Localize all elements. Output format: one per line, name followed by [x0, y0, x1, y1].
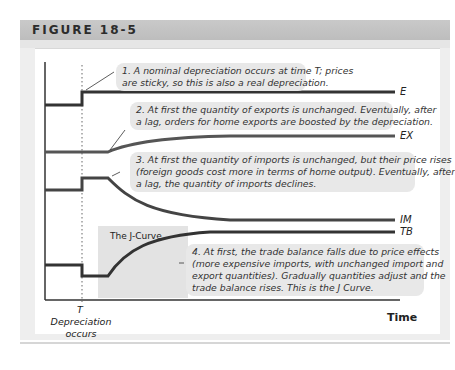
series-label-tb: TB	[400, 226, 413, 237]
series-label-im: IM	[400, 214, 412, 225]
series-label-ex: EX	[400, 130, 413, 141]
series-ex-line	[45, 136, 395, 152]
callout-3: 3. At first the quantity of imports is u…	[130, 152, 415, 192]
x-axis-label: Time	[387, 311, 417, 324]
series-label-e: E	[400, 86, 406, 97]
t-axis-caption: Depreciation occurs	[46, 316, 116, 340]
callout-4: 4. At first, the trade balance falls due…	[186, 244, 424, 296]
callout-1-leader	[86, 72, 114, 90]
callout-1: 1. A nominal depreciation occurs at time…	[116, 63, 306, 91]
t-axis-label: T	[77, 304, 83, 315]
callout-3-leader	[112, 172, 120, 176]
callout-2: 2. At first the quantity of exports is u…	[130, 102, 393, 130]
